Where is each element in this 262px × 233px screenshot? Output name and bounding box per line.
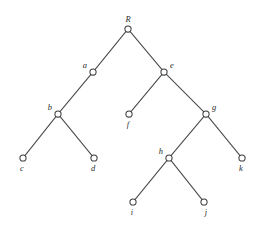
tree-edge-e-g [166, 74, 204, 112]
node-label-f: f [127, 119, 131, 129]
tree-edge-b-c [25, 116, 56, 155]
tree-nodes-group: Raebfgcdhkij [20, 14, 245, 217]
node-label-j: j [204, 207, 208, 217]
node-label-g: g [212, 102, 216, 112]
node-label-i: i [131, 207, 134, 217]
node-label-R: R [124, 14, 131, 24]
node-circle-k[interactable] [239, 155, 245, 161]
tree-node-R[interactable]: R [124, 14, 131, 32]
node-label-e: e [170, 60, 174, 70]
tree-edge-b-d [60, 116, 92, 155]
node-circle-h[interactable] [166, 155, 172, 161]
node-label-h: h [159, 146, 163, 156]
tree-svg-canvas: Raebfgcdhkij [0, 0, 262, 233]
node-circle-e[interactable] [161, 69, 167, 75]
tree-edge-h-i [135, 160, 167, 199]
tree-edge-a-b [60, 74, 91, 111]
tree-node-a[interactable]: a [83, 60, 96, 75]
tree-edge-R-a [95, 31, 126, 69]
node-circle-R[interactable] [125, 26, 131, 32]
node-circle-b[interactable] [55, 111, 61, 117]
node-circle-i[interactable] [130, 199, 136, 205]
tree-node-e[interactable]: e [161, 60, 174, 75]
tree-edge-g-k [208, 116, 240, 155]
tree-node-f[interactable]: f [126, 111, 132, 129]
tree-edge-h-j [171, 160, 202, 199]
node-label-c: c [20, 163, 24, 173]
tree-node-d[interactable]: d [91, 155, 97, 173]
tree-edge-R-e [130, 31, 162, 69]
tree-node-h[interactable]: h [159, 146, 172, 161]
tree-edge-g-h [171, 116, 204, 155]
node-circle-d[interactable] [91, 155, 97, 161]
node-label-k: k [239, 163, 243, 173]
node-circle-c[interactable] [20, 155, 26, 161]
tree-node-i[interactable]: i [130, 199, 136, 217]
node-label-a: a [83, 60, 87, 70]
tree-node-c[interactable]: c [20, 155, 26, 173]
tree-node-b[interactable]: b [48, 102, 61, 117]
tree-node-g[interactable]: g [203, 102, 216, 117]
node-circle-g[interactable] [203, 111, 209, 117]
tree-diagram-figure: Raebfgcdhkij [0, 0, 262, 233]
node-label-d: d [91, 163, 96, 173]
tree-edge-e-f [131, 74, 162, 111]
tree-node-j[interactable]: j [201, 199, 208, 217]
node-circle-f[interactable] [126, 111, 132, 117]
node-label-b: b [48, 102, 52, 112]
node-circle-a[interactable] [90, 69, 96, 75]
node-circle-j[interactable] [201, 199, 207, 205]
tree-node-k[interactable]: k [239, 155, 245, 173]
